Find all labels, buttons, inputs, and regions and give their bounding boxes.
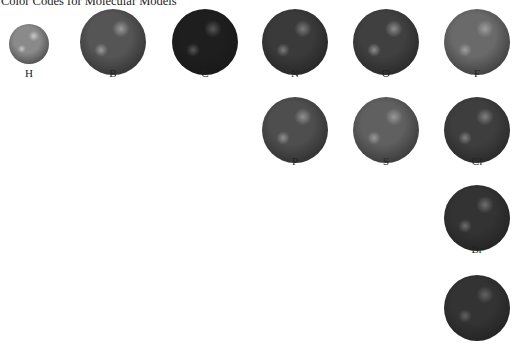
- atom-label: Br: [457, 243, 497, 255]
- atom-label: S: [366, 155, 406, 167]
- atom-sphere-s: [353, 97, 419, 163]
- atom-sphere-f: [444, 9, 510, 75]
- atom-sphere-h: [9, 24, 49, 64]
- atom-label: H: [9, 67, 49, 79]
- atom-sphere-unlabeled: [444, 275, 510, 341]
- atom-label: C: [185, 67, 225, 79]
- atom-sphere-p: [262, 97, 328, 163]
- atom-sphere-n: [262, 9, 328, 75]
- atom-sphere-br: [444, 185, 510, 251]
- atom-sphere-b: [80, 9, 146, 75]
- atom-label: O: [366, 67, 406, 79]
- atom-sphere-cl: [444, 97, 510, 163]
- atom-label: Cl: [457, 155, 497, 167]
- atom-label: B: [93, 67, 133, 79]
- atom-label: P: [275, 155, 315, 167]
- page-title: Color Codes for Molecular Models: [1, 0, 177, 9]
- atom-label: F: [457, 67, 497, 79]
- atom-label: N: [275, 67, 315, 79]
- atom-sphere-o: [353, 9, 419, 75]
- atom-sphere-c: [172, 9, 238, 75]
